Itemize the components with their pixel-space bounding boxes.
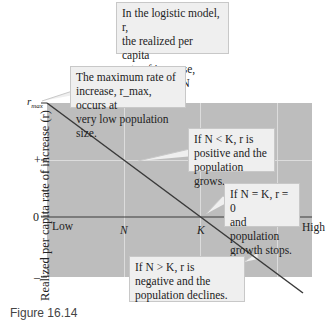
- tick-low: Low: [52, 220, 73, 232]
- figure-caption: Figure 16.14: [10, 306, 77, 320]
- callout-logistic: In the logistic model, r,the realized pe…: [116, 2, 229, 54]
- tick-n: N: [120, 224, 128, 236]
- callout-n-eq-k: If N = K, r = 0and populationgrowth stop…: [224, 183, 300, 227]
- tick-rmax: rmax: [27, 95, 43, 110]
- tick-high: High: [302, 221, 325, 233]
- tick-k: K: [197, 224, 205, 236]
- tick-plus: +: [34, 153, 41, 168]
- callout-n-gt-k: If N > K, r isnegative and thepopulation…: [129, 256, 245, 302]
- callout-n-less-k: If N < K, r ispositive and thepopulation…: [188, 128, 275, 172]
- callout-rmax: The maximum rate ofincrease, r_max, occu…: [70, 66, 186, 108]
- tick-minus: –: [34, 270, 40, 285]
- tick-zero: 0: [33, 210, 39, 225]
